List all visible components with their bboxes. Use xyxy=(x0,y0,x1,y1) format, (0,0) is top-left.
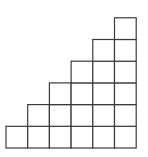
grid-square xyxy=(115,105,137,127)
grid-square xyxy=(93,40,115,62)
grid-square xyxy=(93,83,115,105)
grid-square xyxy=(28,126,50,148)
grid-square xyxy=(6,126,28,148)
grid-square xyxy=(71,61,93,83)
staircase-diagram xyxy=(0,0,148,157)
staircase-grid xyxy=(0,0,148,157)
grid-square xyxy=(71,105,93,127)
grid-square xyxy=(115,40,137,62)
grid-square xyxy=(28,105,50,127)
grid-square xyxy=(115,83,137,105)
grid-square xyxy=(71,83,93,105)
grid-square xyxy=(115,18,137,40)
grid-square xyxy=(93,126,115,148)
grid-square xyxy=(93,61,115,83)
grid-square xyxy=(115,61,137,83)
grid-square xyxy=(49,126,71,148)
grid-square xyxy=(115,126,137,148)
grid-square xyxy=(49,83,71,105)
grid-square xyxy=(93,105,115,127)
grid-square xyxy=(49,105,71,127)
grid-square xyxy=(71,126,93,148)
